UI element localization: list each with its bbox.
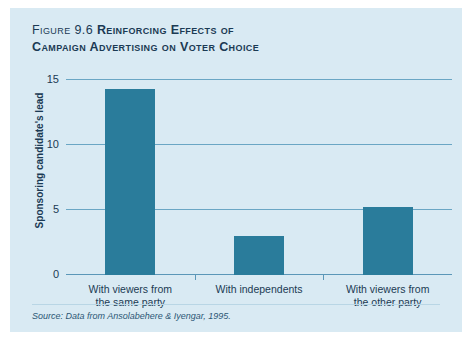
y-tick-label: 5 [53, 203, 59, 215]
bar-series [66, 68, 452, 275]
plot-area: 051015 [66, 68, 452, 275]
bar-slot [66, 68, 195, 275]
x-axis-label: With independents [195, 283, 324, 309]
bar[interactable] [234, 236, 284, 275]
bar[interactable] [363, 207, 413, 275]
bar[interactable] [105, 89, 155, 275]
y-tick-label: 10 [47, 138, 59, 150]
figure-number: Figure 9.6 [32, 23, 97, 37]
figure-title-line-2: Campaign Advertising on Voter Choice [32, 40, 259, 54]
figure-title-line-1: Reinforcing Effects of [97, 23, 234, 37]
x-axis-tick [323, 275, 324, 280]
x-axis-label: With viewers fromthe other party [323, 283, 452, 309]
source-divider [32, 304, 440, 305]
y-tick-label: 15 [47, 73, 59, 85]
source-note: Source: Data from Ansolabehere & Iyengar… [32, 311, 231, 321]
x-axis-labels: With viewers fromthe same partyWith inde… [66, 283, 452, 309]
chart-plot-wrapper: Sponsoring candidate's lead 051015 With … [10, 60, 462, 285]
y-tick-label: 0 [53, 268, 59, 280]
bar-slot [195, 68, 324, 275]
figure-panel: Figure 9.6 Reinforcing Effects of Campai… [10, 8, 462, 332]
x-axis-tick [195, 275, 196, 280]
figure-title: Figure 9.6 Reinforcing Effects of Campai… [32, 22, 432, 56]
bar-slot [323, 68, 452, 275]
x-axis-label: With viewers fromthe same party [66, 283, 195, 309]
y-axis-title: Sponsoring candidate's lead [34, 86, 45, 236]
